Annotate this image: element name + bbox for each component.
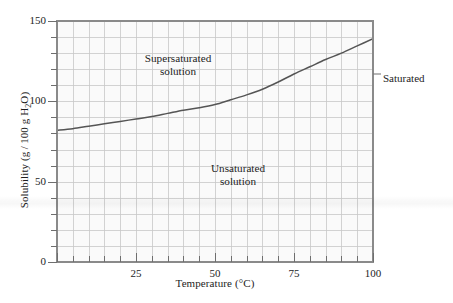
x-tick-label-25: 25 [116, 267, 156, 279]
y-axis-title-prefix: Solubility (g / 100 g H [18, 108, 30, 209]
y-tick-label-50: 50 [14, 175, 46, 187]
x-tick-label-50: 50 [195, 267, 235, 279]
unsaturated-region-label: Unsaturated solution [178, 162, 298, 189]
supersaturated-region-label: Supersaturated solution [118, 52, 238, 79]
solubility-curve-figure: Solubility (g / 100 g H2O) Temperature (… [0, 0, 453, 303]
x-axis-title-unit: °C [239, 277, 251, 289]
y-tick-label-150: 150 [14, 14, 46, 26]
x-axis-title-suffix: ) [251, 277, 255, 289]
x-tick-label-100: 100 [353, 267, 393, 279]
chart-plot-area [0, 0, 453, 303]
unsaturated-label-line1: Unsaturated [178, 162, 298, 175]
supersaturated-label-line1: Supersaturated [118, 52, 238, 65]
y-tick-label-100: 100 [14, 94, 46, 106]
y-tick-label-0: 0 [14, 255, 46, 267]
y-axis-title: Solubility (g / 100 g H2O) [18, 65, 34, 235]
x-tick-label-75: 75 [274, 267, 314, 279]
saturated-curve-label: Saturated [383, 72, 425, 84]
unsaturated-label-line2: solution [178, 175, 298, 188]
supersaturated-label-line2: solution [118, 65, 238, 78]
